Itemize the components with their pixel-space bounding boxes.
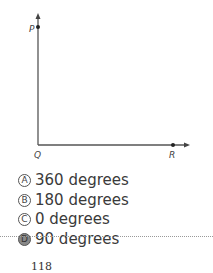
label-p: P — [29, 24, 35, 34]
choice-c[interactable]: C 0 degrees — [18, 210, 129, 230]
choice-a-text: 360 degrees — [35, 171, 129, 191]
page-number: 118 — [31, 260, 52, 273]
choice-b-bubble[interactable]: B — [18, 194, 31, 207]
point-p — [36, 25, 40, 29]
choice-c-text: 0 degrees — [35, 210, 110, 230]
choice-c-bubble[interactable]: C — [18, 213, 31, 226]
choice-d-text: 90 degrees — [35, 230, 119, 250]
choice-b-text: 180 degrees — [35, 191, 129, 211]
dotted-divider — [0, 236, 213, 237]
choice-d[interactable]: D 90 degrees — [18, 230, 129, 250]
label-q: Q — [34, 150, 41, 160]
answer-choices: A 360 degrees B 180 degrees C 0 degrees … — [18, 171, 129, 249]
choice-d-bubble[interactable]: D — [18, 233, 31, 246]
choice-a-bubble[interactable]: A — [18, 174, 31, 187]
choice-b[interactable]: B 180 degrees — [18, 191, 129, 211]
choice-a[interactable]: A 360 degrees — [18, 171, 129, 191]
angle-diagram: P Q R — [0, 0, 213, 170]
label-r: R — [169, 150, 175, 160]
point-r — [171, 143, 175, 147]
